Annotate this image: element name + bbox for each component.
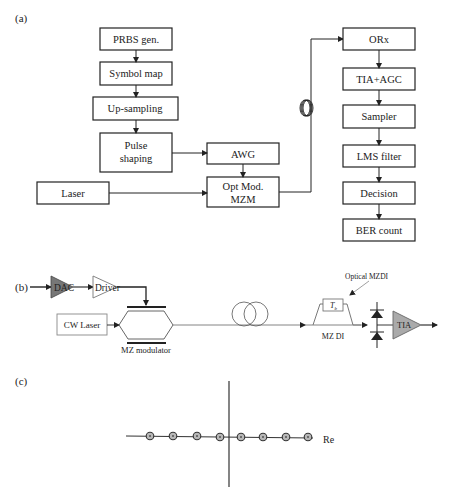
panel-a-label: (a) [15,12,28,25]
fiber-link-line [279,39,343,192]
ber-count-label: BER count [356,225,402,236]
pulse-label: Pulse [125,140,148,151]
lms-filter-label: LMS filter [357,151,402,162]
panel-c: (c) Re [15,375,335,487]
optical-mzdi-label: Optical MZDI [345,272,389,281]
sampler-label: Sampler [362,111,397,122]
tia-agc-label: TIA+AGC [356,74,402,85]
shaping-label: shaping [120,153,153,164]
driver-label: Driver [95,283,121,293]
up-sampling-label: Up-sampling [108,103,164,114]
optical-mzdi-pointer [350,281,369,295]
panel-b-label: (b) [15,281,28,294]
tia-label: TIA [397,320,412,330]
decision-label: Decision [360,188,398,199]
panel-c-label: (c) [15,375,28,388]
mz-modulator-label: MZ modulator [121,345,171,355]
fiber-spool-icon [232,302,268,326]
laser-label: Laser [61,188,85,199]
awg-label: AWG [231,149,256,160]
symbol-map-label: Symbol map [109,68,162,79]
mz-modulator-icon [119,307,173,343]
panel-b: (b) DAC Driver CW Laser MZ modulator [15,272,437,355]
cw-laser-label: CW Laser [64,320,101,330]
dac-label: DAC [54,283,74,293]
orx-label: ORx [369,34,390,45]
diagram-canvas: (a) PRBS gen. Symbol map Up-sampling Pul… [0,0,453,498]
fiber-coil-icon [300,100,313,116]
prbs-gen-label: PRBS gen. [113,34,159,45]
driver-to-modulator-arrow [117,287,146,305]
mzm-label: MZM [230,194,256,205]
mz-di-label: MZ DI [322,332,345,341]
opt-mod-label: Opt Mod. [223,181,264,192]
panel-a: (a) PRBS gen. Symbol map Up-sampling Pul… [15,12,415,241]
real-axis-label: Re [323,434,335,445]
